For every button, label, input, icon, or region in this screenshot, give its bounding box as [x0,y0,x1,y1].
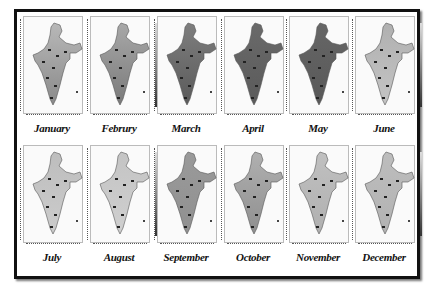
latitude-axis [352,19,355,111]
map-panel-august: August [86,143,150,268]
india-map-icon [164,150,218,240]
color-scale-bar [420,23,422,107]
india-map-icon [97,150,151,240]
india-map-icon [30,21,84,111]
figure-frame: JanuaryFebruryMarchAprilMayJuneJulyAugus… [14,9,420,279]
map-panel-march: March [153,14,217,139]
india-map-icon [97,21,151,111]
latitude-axis [286,148,289,240]
longitude-axis [292,114,346,117]
latitude-axis [352,148,355,240]
latitude-axis [87,148,90,240]
longitude-axis [292,243,346,246]
map-plot-area [355,16,415,114]
india-map-icon [362,150,416,240]
map-panel-july: July [19,143,83,268]
map-panel-september: September [153,143,217,268]
month-label: October [220,251,286,263]
month-label: April [220,122,286,134]
map-plot-area [289,145,349,243]
map-plot-area [23,145,83,243]
longitude-axis [227,243,281,246]
month-label: November [285,251,351,263]
map-panel-october: October [220,143,284,268]
map-panel-june: June [351,14,415,139]
month-label: July [19,251,85,263]
longitude-axis [358,243,412,246]
india-map-icon [296,150,350,240]
month-label: May [285,122,351,134]
map-plot-area [90,145,150,243]
map-panel-februry: Februry [86,14,150,139]
india-map-icon [30,150,84,240]
latitude-axis [286,19,289,111]
latitude-axis [87,19,90,111]
map-plot-area [224,145,284,243]
month-label: September [153,251,219,263]
india-map-icon [296,21,350,111]
map-panel-january: January [19,14,83,139]
india-map-icon [231,150,285,240]
longitude-axis [160,114,214,117]
map-plot-area [224,16,284,114]
month-label: Februry [86,122,152,134]
latitude-axis [154,148,157,240]
latitude-axis [154,19,157,111]
month-label: December [351,251,417,263]
latitude-axis [20,19,23,111]
map-plot-area [23,16,83,114]
map-panel-november: November [285,143,349,268]
month-label: January [19,122,85,134]
longitude-axis [160,243,214,246]
map-plot-area [157,145,217,243]
map-panel-april: April [220,14,284,139]
map-panel-may: May [285,14,349,139]
longitude-axis [227,114,281,117]
india-map-icon [164,21,218,111]
india-map-icon [231,21,285,111]
map-panel-december: December [351,143,415,268]
longitude-axis [26,243,80,246]
map-plot-area [355,145,415,243]
latitude-axis [221,148,224,240]
india-map-icon [362,21,416,111]
month-label: March [153,122,219,134]
latitude-axis [221,19,224,111]
month-label: August [86,251,152,263]
map-plot-area [157,16,217,114]
longitude-axis [93,243,147,246]
longitude-axis [93,114,147,117]
map-plot-area [289,16,349,114]
color-scale-bar [420,152,422,236]
longitude-axis [26,114,80,117]
latitude-axis [20,148,23,240]
map-plot-area [90,16,150,114]
longitude-axis [358,114,412,117]
month-label: June [351,122,417,134]
